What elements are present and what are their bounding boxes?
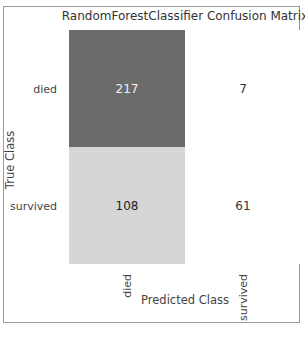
cell-value-label: 61 — [235, 199, 250, 213]
cell-value-label: 217 — [116, 82, 139, 96]
x-tick-label: survived — [237, 274, 250, 321]
y-axis-label: True Class — [3, 131, 17, 190]
x-axis-label: Predicted Class — [141, 293, 229, 307]
confusion-matrix-chart: RandomForestClassifier Confusion Matrix … — [0, 0, 305, 341]
y-tick-label: died — [33, 83, 57, 96]
x-tick-label: died — [121, 274, 134, 298]
chart-title: RandomForestClassifier Confusion Matrix — [62, 9, 305, 23]
cell-value-label: 7 — [239, 82, 247, 96]
y-tick-label: survived — [10, 200, 57, 213]
cell-value-label: 108 — [116, 199, 139, 213]
